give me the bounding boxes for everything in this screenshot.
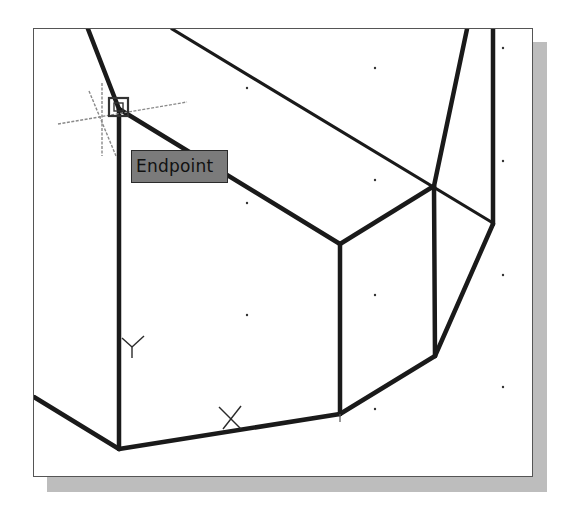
autocad-screenshot: Endpoint — [0, 0, 572, 508]
endpoint-snap-tooltip: Endpoint — [131, 150, 228, 183]
edge-mid-to-corner — [340, 186, 434, 244]
model-edges[interactable] — [34, 29, 493, 449]
drawing-viewport[interactable]: Endpoint — [33, 28, 533, 477]
edge-right-upper-diagonal — [434, 29, 467, 186]
ucs-x-axis-icon — [219, 406, 241, 429]
drawing-canvas[interactable] — [34, 29, 532, 476]
edge-bottom-right — [340, 356, 435, 414]
edge-far-right-diagonal — [435, 224, 493, 356]
ucs-y-axis-icon — [122, 336, 144, 358]
edge-right-inner-vertical — [434, 186, 435, 356]
edge-bottom-left — [34, 397, 119, 449]
edge-bottom — [119, 414, 340, 449]
crosshair-cursor — [58, 83, 187, 156]
